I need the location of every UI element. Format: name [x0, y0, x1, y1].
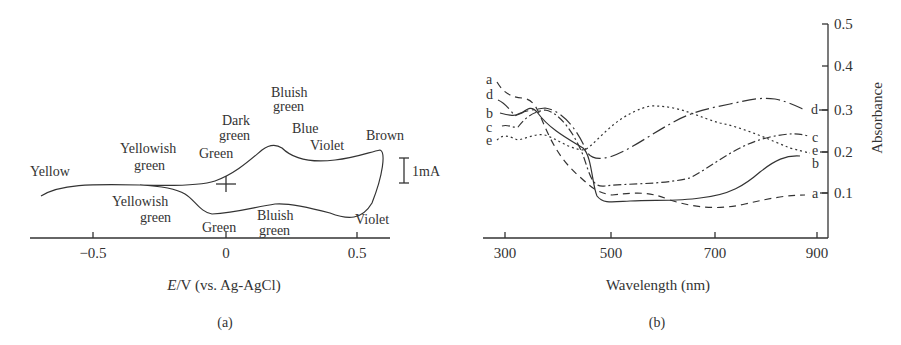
curve-label-b-left: b — [486, 106, 493, 121]
curve-label-a-right: a — [812, 186, 819, 201]
spectrum-a — [497, 82, 805, 207]
figure: −0.5 0 0.5 E/V (vs. Ag-AgCl) (a) 1mA Yel… — [0, 0, 901, 345]
label-bluish-green-bottom: green — [259, 223, 290, 238]
curve-label-b-right: b — [812, 156, 819, 171]
label-dark-green: green — [219, 128, 250, 143]
panel-b-y-tick-label: 0.4 — [834, 58, 853, 74]
label-blue: Blue — [292, 121, 318, 136]
curve-label-a-left: a — [486, 72, 493, 87]
label-green-top: Green — [199, 146, 233, 161]
panel-b-x-tick-label: 900 — [806, 245, 829, 261]
label-violet-top: Violet — [310, 138, 344, 153]
curve-label-e-left: e — [486, 133, 492, 148]
label-yellow: Yellow — [30, 164, 71, 179]
spectrum-d — [498, 98, 805, 158]
panel-b: 300 500 700 900 0.5 0.4 0.3 0.2 0.1 Abso… — [483, 16, 885, 331]
label-yellowish-green-bottom: Yellowish — [112, 194, 168, 209]
panel-b-y-tick-label: 0.2 — [834, 144, 853, 160]
spectrum-c — [502, 110, 808, 186]
panel-b-x-tick-label: 500 — [600, 245, 623, 261]
label-bluish-green-top: green — [273, 99, 304, 114]
label-green-bottom: Green — [202, 220, 236, 235]
label-brown: Brown — [366, 128, 404, 143]
label-bluish-green-bottom: Bluish — [257, 208, 294, 223]
panel-b-x-tick-label: 700 — [704, 245, 727, 261]
panel-b-x-label: Wavelength (nm) — [606, 277, 710, 294]
panel-a-caption: (a) — [217, 315, 233, 331]
spectrum-b — [500, 108, 800, 202]
curve-label-d-right: d — [811, 102, 818, 117]
panel-b-y-label: Absorbance — [869, 82, 885, 154]
label-yellowish-green-top: green — [134, 158, 165, 173]
spectrum-e — [497, 106, 810, 153]
panel-a-tick-label: −0.5 — [79, 245, 106, 261]
panel-b-x-tick-label: 300 — [494, 245, 517, 261]
panel-b-caption: (b) — [649, 315, 666, 331]
curve-label-d-left: d — [486, 87, 493, 102]
panel-b-y-tick-label: 0.5 — [834, 16, 853, 32]
panel-a: −0.5 0 0.5 E/V (vs. Ag-AgCl) (a) 1mA Yel… — [30, 85, 441, 331]
label-yellowish-green-bottom: green — [140, 210, 171, 225]
panel-a-tick-label: 0.5 — [348, 245, 367, 261]
label-yellowish-green-top: Yellowish — [120, 141, 176, 156]
panel-b-y-tick-label: 0.3 — [834, 102, 853, 118]
panel-a-tick-label: 0 — [222, 245, 230, 261]
label-dark-green: Dark — [222, 113, 250, 128]
panel-b-y-tick-label: 0.1 — [834, 185, 853, 201]
panel-a-x-label: E/V (vs. Ag-AgCl) — [166, 277, 280, 294]
label-violet-bottom: Violet — [355, 212, 389, 227]
scale-bar-label: 1mA — [412, 164, 441, 179]
label-bluish-green-top: Bluish — [271, 85, 308, 100]
